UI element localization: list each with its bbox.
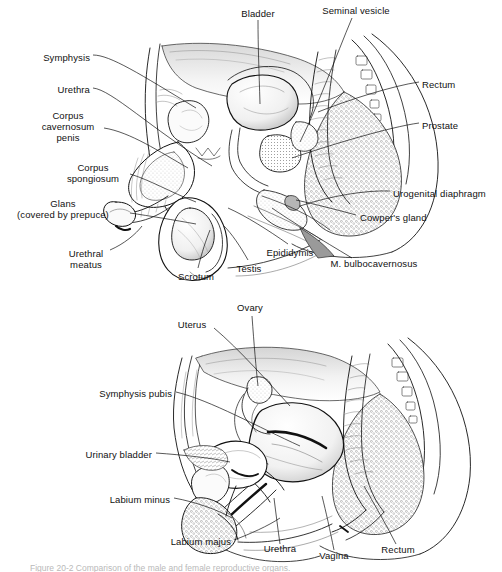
figure-caption: Figure 20-2 Comparison of the male and f…: [30, 563, 290, 572]
label-ovary: Ovary: [237, 302, 263, 314]
figure-page: Symphysis Urethra Corpus cavernosum peni…: [0, 0, 502, 572]
label-symphysis: Symphysis: [43, 52, 90, 64]
label-corpus-spongiosum-1: Corpus: [77, 162, 108, 174]
label-urethral-meatus-2: meatus: [70, 259, 102, 271]
label-vagina: Vagina: [319, 550, 348, 562]
label-urogenital-diaphragm: Urogenital diaphragm: [393, 188, 486, 200]
label-uterus: Uterus: [178, 319, 207, 331]
label-corpus-cavernosum-1: Corpus: [52, 110, 83, 122]
label-labium-majus: Labium majus: [171, 536, 231, 548]
label-m-bulbocavernosus: M. bulbocavernosus: [331, 258, 418, 270]
label-epididymis: Epididymis: [267, 247, 314, 259]
label-rectum-male: Rectum: [422, 79, 455, 91]
label-testis: Testis: [237, 263, 262, 275]
label-rectum-female: Rectum: [381, 544, 414, 556]
label-cowpers-gland: Cowper's gland: [360, 212, 427, 224]
label-urinary-bladder: Urinary bladder: [86, 449, 152, 461]
female-anatomy-illustration: [0, 300, 502, 572]
label-corpus-cavernosum-3: penis: [56, 132, 79, 144]
label-glans-1: Glans: [50, 198, 75, 210]
label-glans-2: (covered by prepuce): [17, 209, 109, 221]
label-scrotum: Scrotum: [178, 271, 214, 283]
label-prostate: Prostate: [422, 120, 458, 132]
label-corpus-spongiosum-2: spongiosum: [67, 173, 119, 185]
label-urethra: Urethra: [58, 84, 90, 96]
label-urethral-meatus-1: Urethral: [69, 248, 104, 260]
label-labium-minus: Labium minus: [110, 494, 170, 506]
label-bladder: Bladder: [241, 8, 274, 20]
label-symphysis-pubis: Symphysis pubis: [99, 388, 172, 400]
label-seminal-vesicle: Seminal vesicle: [322, 5, 390, 17]
label-corpus-cavernosum-2: cavernosum: [42, 121, 95, 133]
label-urethra-female: Urethra: [264, 543, 296, 555]
